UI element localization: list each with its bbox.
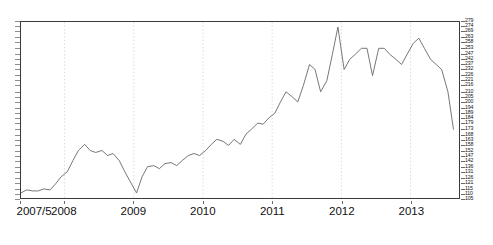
series-line bbox=[21, 27, 453, 193]
x-axis-tick bbox=[64, 201, 65, 204]
x-axis-tick bbox=[272, 201, 273, 204]
y-axis-minor-tick bbox=[15, 199, 20, 200]
x-axis-label: 2008 bbox=[51, 205, 77, 218]
gridlines bbox=[65, 22, 411, 198]
x-axis-label: 2009 bbox=[121, 205, 147, 218]
x-axis-tick bbox=[133, 201, 134, 204]
x-axis-tick bbox=[342, 201, 343, 204]
x-axis-label: 2010 bbox=[190, 205, 216, 218]
x-axis-label: 2012 bbox=[329, 205, 355, 218]
line-chart-svg bbox=[21, 22, 459, 198]
x-axis-label: 2011 bbox=[260, 205, 285, 218]
x-axis-tick bbox=[203, 201, 204, 204]
x-axis-label: 2013 bbox=[399, 205, 425, 218]
chart-container: 2792742692632582532472422372322262212162… bbox=[0, 0, 493, 245]
plot-area bbox=[20, 21, 460, 199]
x-axis: 2007/5200820092010201120122013 bbox=[0, 201, 493, 223]
y-axis: 2792742692632582532472422372322262212162… bbox=[461, 21, 493, 199]
x-axis-tick bbox=[20, 201, 21, 204]
x-axis-tick bbox=[411, 201, 412, 204]
x-axis-label: 2007/5 bbox=[16, 205, 51, 218]
